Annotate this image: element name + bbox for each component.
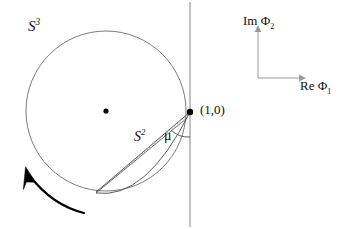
- label-s2-base: S: [134, 129, 141, 144]
- label-im-prefix: Im: [243, 13, 261, 28]
- label-real-axis: Re Φ1: [300, 79, 331, 96]
- mu-angle-arc: [171, 130, 190, 137]
- diagram-svg: [0, 0, 351, 229]
- label-re-symbol: Φ: [318, 78, 328, 93]
- label-imaginary-axis: Im Φ2: [243, 14, 274, 31]
- label-s2: S2: [134, 128, 145, 144]
- label-s2-exponent: 2: [141, 127, 145, 137]
- label-im-subscript: 2: [270, 22, 274, 31]
- rotation-arrow-head: [22, 167, 37, 191]
- label-im-symbol: Φ: [261, 13, 271, 28]
- marked-point-dot: [187, 109, 193, 115]
- label-s3-base: S: [28, 18, 36, 34]
- label-s3: S3: [28, 18, 40, 34]
- label-marked-point: (1,0): [200, 103, 225, 116]
- figure-canvas: S3 S2 μ (1,0) Im Φ2 Re Φ1: [0, 0, 351, 229]
- lens-upper-edge: [96, 112, 190, 192]
- label-re-prefix: Re: [300, 78, 318, 93]
- label-mu-angle: μ: [164, 129, 172, 143]
- rotation-arrow-shaft: [30, 176, 84, 213]
- circle-center-dot: [103, 108, 108, 113]
- label-s3-exponent: 3: [36, 17, 41, 27]
- label-re-subscript: 1: [327, 87, 331, 96]
